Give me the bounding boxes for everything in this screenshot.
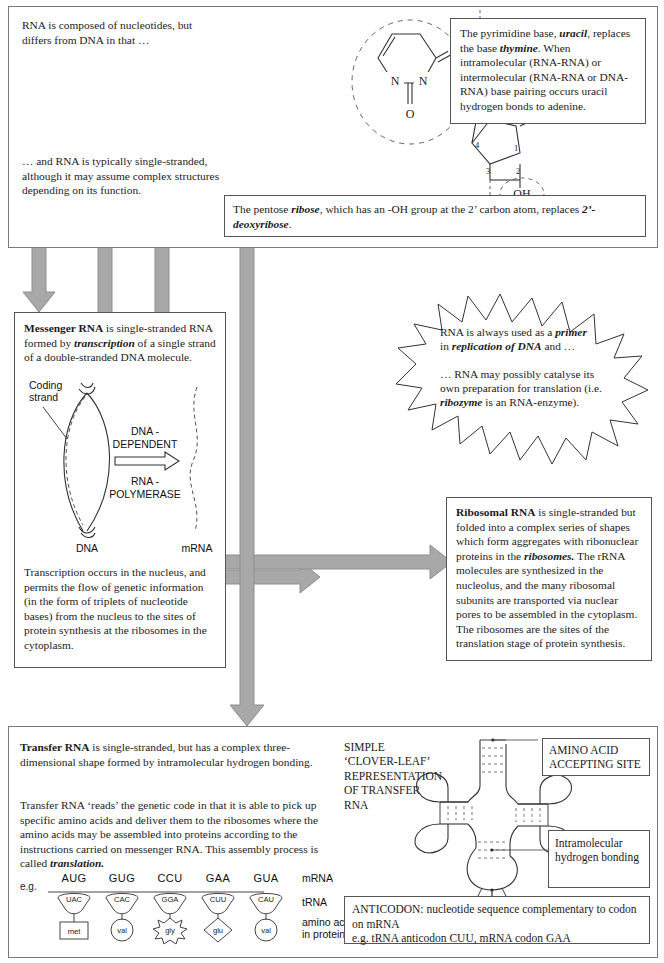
mrna-label: mRNA [182, 542, 213, 554]
amino-acid-4: glu [213, 926, 223, 935]
amino-acid-2: val [117, 926, 127, 935]
row-label-trna: tRNA [302, 896, 327, 908]
polymerase-l2: DEPENDENT [113, 438, 178, 450]
trna-anticodon-4: CUU [210, 895, 226, 904]
amino-acid-site-label: AMINO ACID ACCEPTING SITE [543, 739, 649, 776]
ribose-callout-box: The pentose ribose, which has an -OH gro… [224, 195, 646, 237]
codon-translation-table: e.g. AUG UAC met GUG CAC val CCU GGA gly… [16, 868, 346, 954]
trna-detail-text: Transfer RNA ‘reads’ the genetic code in… [20, 798, 332, 871]
trna-intro-text: Transfer RNA is single-stranded, but has… [20, 740, 332, 769]
transcription-diagram: Coding strand DNA - DEPENDENT RNA - POLY… [15, 375, 227, 555]
starburst-callout: RNA is always used as a primer in replic… [386, 292, 658, 470]
cloverleaf-caption: SIMPLE ‘CLOVER-LEAF’ REPRESENTATION OF T… [344, 740, 432, 812]
starburst-p1-line: RNA is always used as a primer [440, 326, 587, 338]
coding-strand-label-l1: Coding [29, 379, 62, 391]
arrow-to-trna [230, 246, 264, 726]
ribose-callout-text: The pentose ribose, which has an -OH gro… [225, 196, 645, 237]
mrna-codon-1: AUG [61, 872, 86, 884]
intro-text-2: … and RNA is typically single-stranded, … [22, 154, 227, 198]
amino-acid-1: met [68, 927, 82, 936]
mrna-codon-4: GAA [206, 872, 231, 884]
anticodon-box: ANTICODON: nucleotide sequence complemen… [344, 896, 650, 944]
svg-text:N: N [391, 74, 400, 88]
mrna-codon-2: GUG [109, 872, 135, 884]
dna-label: DNA [76, 542, 98, 554]
hydrogen-bonding-box: Intramolecular hydrogen bonding [548, 830, 650, 888]
arrow-to-mrna [23, 246, 55, 312]
svg-text:1: 1 [514, 143, 518, 153]
mrna-codon-3: CCU [157, 872, 182, 884]
amino-acid-5: val [261, 926, 271, 935]
svg-text:O: O [406, 107, 415, 121]
mrna-intro-text: Messenger RNA is single-stranded RNA for… [15, 313, 225, 365]
polymerase-l1: DNA - [131, 425, 160, 437]
trna-anticodon-3: GGA [162, 895, 180, 904]
row-label-amino-2: in protein [302, 928, 345, 940]
svg-text:N: N [419, 74, 428, 88]
uracil-callout-text: The pyrimidine base, uracil, replaces th… [451, 19, 645, 121]
ribosomal-rna-box: Ribosomal RNA is single-stranded but fol… [446, 497, 652, 661]
mrna-codon-5: GUA [253, 872, 278, 884]
rrna-text: Ribosomal RNA is single-stranded but fol… [447, 498, 651, 658]
trna-anticodon-1: UAC [66, 895, 83, 904]
row-label-mrna: mRNA [302, 872, 333, 884]
amino-acid-3: gly [165, 926, 175, 935]
coding-strand-label-l2: strand [29, 391, 58, 403]
trna-anticodon-5: CAU [258, 895, 274, 904]
polymerase-l4: POLYMERASE [109, 488, 181, 500]
anticodon-text: ANTICODON: nucleotide sequence complemen… [345, 897, 649, 951]
mrna-detail-text: Transcription occurs in the nucleus, and… [24, 565, 218, 653]
eg-label: e.g. [20, 881, 37, 892]
trna-anticodon-2: CAC [114, 895, 131, 904]
amino-acid-site-box: AMINO ACID ACCEPTING SITE [542, 738, 650, 776]
hydrogen-bonding-label: Intramolecular hydrogen bonding [549, 831, 649, 870]
starburst-p2-line: … RNA may possibly catalyse its [440, 368, 595, 380]
polymerase-l3: RNA - [131, 475, 160, 487]
uracil-callout-box: The pyrimidine base, uracil, replaces th… [450, 18, 646, 124]
anticodon-example: e.g. tRNA anticodon CUU, mRNA codon GAA [352, 932, 571, 944]
polymerase-arrow [115, 452, 179, 470]
intro-text-1: RNA is composed of nucleotides, but diff… [22, 18, 222, 47]
messenger-rna-box: Messenger RNA is single-stranded RNA for… [14, 312, 226, 668]
rna-overview-diagram: RNA is composed of nucleotides, but diff… [0, 0, 664, 963]
